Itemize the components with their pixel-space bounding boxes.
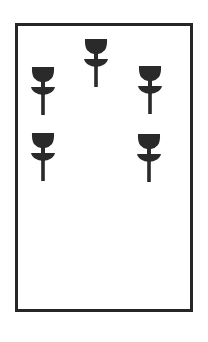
cup-icon: [137, 65, 163, 115]
cup-icon: [30, 66, 56, 116]
cup-icon: [83, 38, 109, 88]
cup-icon: [136, 133, 162, 183]
playing-card-five-of-cups[interactable]: [15, 23, 193, 312]
cup-icon: [30, 132, 56, 182]
